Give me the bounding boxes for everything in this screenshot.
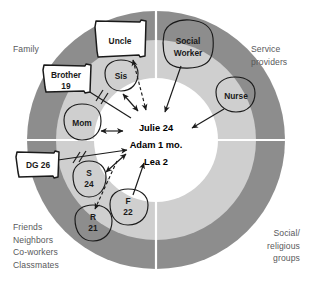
node-s-label-line1: S — [86, 168, 92, 178]
node-s-label-line2: 24 — [84, 179, 94, 189]
center-line-adam: Adam 1 mo. — [130, 140, 183, 150]
node-sis-label: Sis — [115, 71, 128, 81]
node-uncle[interactable]: Uncle — [95, 20, 146, 57]
node-nurse-label: Nurse — [224, 91, 248, 101]
node-f-label-line2: 22 — [123, 207, 133, 217]
center-line-lea: Lea 2 — [144, 157, 168, 167]
node-dg[interactable]: DG 26 — [16, 151, 59, 178]
node-dg-label: DG 26 — [26, 160, 51, 170]
quadrant-label-friends: FriendsNeighborsCo-workersClassmates — [13, 221, 59, 271]
quadrant-label-family: Family — [13, 43, 39, 56]
node-social-worker-label-line1: Social — [176, 36, 201, 46]
quadrant-label-social-religious: Social/religiousgroups — [267, 227, 300, 265]
node-brother[interactable]: Brother 19 — [43, 64, 91, 93]
node-f-label-line1: F — [125, 196, 130, 206]
node-brother-label-line2: 19 — [61, 81, 71, 91]
node-brother-label-line1: Brother — [51, 70, 82, 80]
ecomap-diagram: Uncle Social Worker Sis Brother 19 Nurse… — [0, 0, 312, 291]
node-social-worker-label-line2: Worker — [174, 48, 203, 58]
node-r-label-line2: 21 — [88, 223, 98, 233]
center-line-julie: Julie 24 — [139, 123, 174, 133]
node-r-label-line1: R — [90, 212, 96, 222]
node-mom-label: Mom — [72, 118, 92, 128]
quadrant-label-service-providers: Serviceproviders — [251, 43, 287, 68]
node-uncle-label: Uncle — [109, 36, 132, 46]
